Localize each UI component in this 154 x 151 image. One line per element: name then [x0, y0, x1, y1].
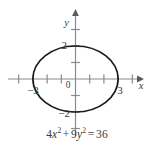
x-tick-label-3: 3 — [117, 84, 123, 96]
equation-equals: = — [86, 128, 96, 140]
y-tick-label-2: 2 — [62, 39, 68, 51]
x-tick-label--3: −3 — [27, 84, 39, 96]
ellipse-figure: y x −3 3 2 −2 0 4x2+9y2=36 — [0, 0, 154, 151]
origin-label: 0 — [66, 80, 71, 90]
y-tick-label--2: −2 — [58, 107, 70, 119]
axis-group — [8, 9, 144, 136]
equation-rhs: 36 — [96, 128, 108, 140]
equation-caption: 4x2+9y2=36 — [0, 128, 154, 140]
equation-plus: + — [61, 128, 71, 140]
x-axis-label: x — [138, 80, 144, 91]
y-axis-label: y — [63, 17, 69, 28]
y-axis-arrowhead — [72, 9, 79, 16]
